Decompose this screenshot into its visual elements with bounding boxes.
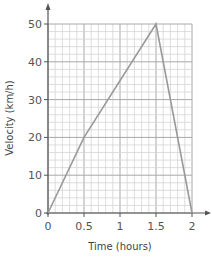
grid [48,24,192,213]
y-tick-label: 20 [28,131,42,144]
x-axis-title: Time (hours) [87,241,152,252]
y-axis-title: Velocity (km/h) [4,80,15,156]
x-tick-label: 0 [45,220,52,233]
velocity-time-chart: 0102030405000.511.52 Time (hours) Veloci… [0,0,212,259]
y-tick-label: 10 [28,169,42,182]
y-tick-label: 50 [28,18,42,31]
y-axis-arrow-icon [46,3,51,10]
x-tick-label: 0.5 [75,220,93,233]
y-tick-label: 30 [28,94,42,107]
x-axis-arrow-icon [205,211,211,216]
x-tick-label: 2 [189,220,196,233]
y-tick-label: 0 [35,207,42,220]
x-tick-label: 1.5 [147,220,165,233]
y-tick-label: 40 [28,56,42,69]
x-tick-label: 1 [117,220,124,233]
